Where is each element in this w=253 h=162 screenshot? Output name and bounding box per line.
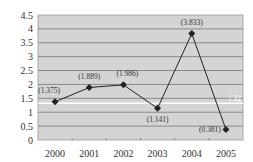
data-label: (1.141) bbox=[147, 115, 169, 124]
y-tick-label: 1 bbox=[28, 107, 33, 118]
x-tick-label: 2000 bbox=[45, 148, 65, 159]
y-tick-label: 2.5 bbox=[21, 65, 34, 76]
x-tick-label: 2001 bbox=[79, 148, 99, 159]
x-tick-label: 2005 bbox=[216, 148, 236, 159]
data-label: (0.381) bbox=[199, 125, 221, 134]
y-tick-label: 1.5 bbox=[21, 93, 34, 104]
data-label: (1.986) bbox=[116, 69, 138, 78]
x-tick-label: 2004 bbox=[182, 148, 202, 159]
y-tick-label: 3.5 bbox=[21, 37, 34, 48]
y-tick-label: 0.5 bbox=[21, 121, 34, 132]
y-tick-label: 4 bbox=[28, 23, 33, 34]
y-tick-label: 0 bbox=[28, 135, 33, 146]
data-label: (3.833) bbox=[181, 18, 203, 27]
y-tick-label: 2 bbox=[28, 79, 33, 90]
y-tick-label: 3 bbox=[28, 51, 33, 62]
x-tick-label: 2003 bbox=[148, 148, 168, 159]
data-label: (1.889) bbox=[78, 72, 100, 81]
y-tick-label: 4.5 bbox=[21, 10, 34, 21]
x-axis: 200020012002200320042005 bbox=[45, 138, 236, 159]
x-tick-label: 2002 bbox=[113, 148, 133, 159]
data-label: (1.375) bbox=[38, 86, 60, 95]
reference-line-label: 1.32 bbox=[228, 94, 241, 103]
y-axis: 00.511.522.533.544.5 bbox=[21, 10, 34, 146]
plot-area bbox=[38, 15, 243, 140]
line-chart: 1.32 00.511.522.533.544.5 20002001200220… bbox=[0, 0, 253, 162]
